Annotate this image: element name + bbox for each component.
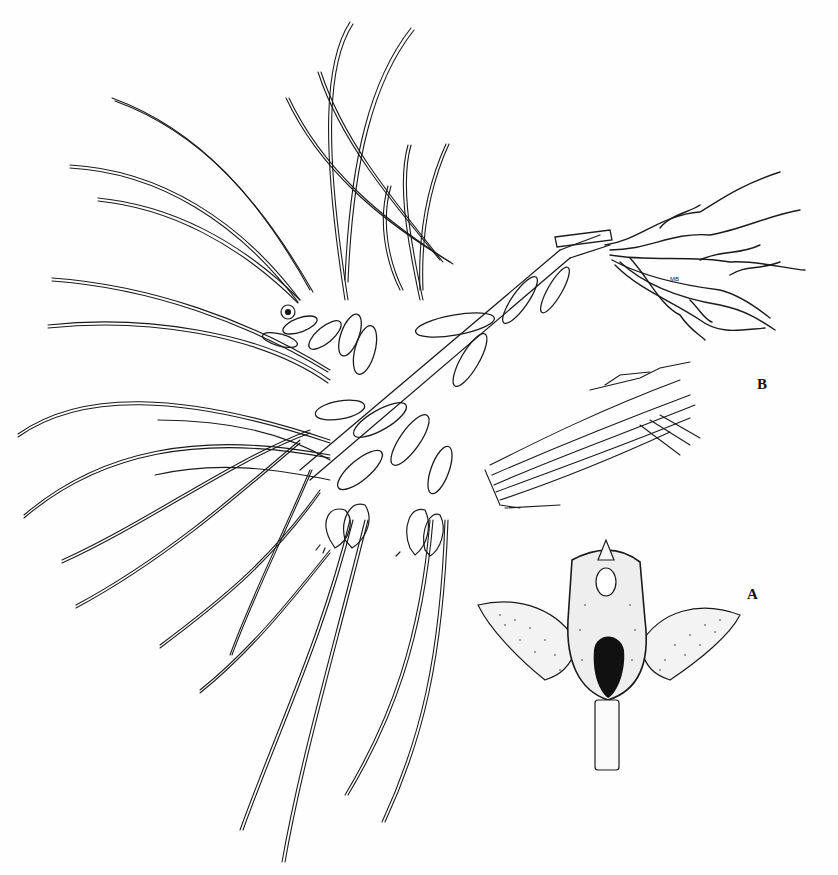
leaf-group-upper [48,98,330,383]
roots [605,172,805,340]
flowers [281,305,443,556]
botanical-plate: B A MB [0,0,838,875]
artist-monogram: MB [670,276,679,282]
figure-label-a: A [747,587,758,602]
figure-label-b: B [757,377,767,392]
rhizome-detail-b [485,362,700,508]
plant-habit-drawing [0,0,838,875]
leaf-group-bottom [240,520,448,862]
flower-detail-a [478,540,740,770]
leaf-group-top [286,22,453,300]
leaf-group-lower-left [18,402,330,693]
